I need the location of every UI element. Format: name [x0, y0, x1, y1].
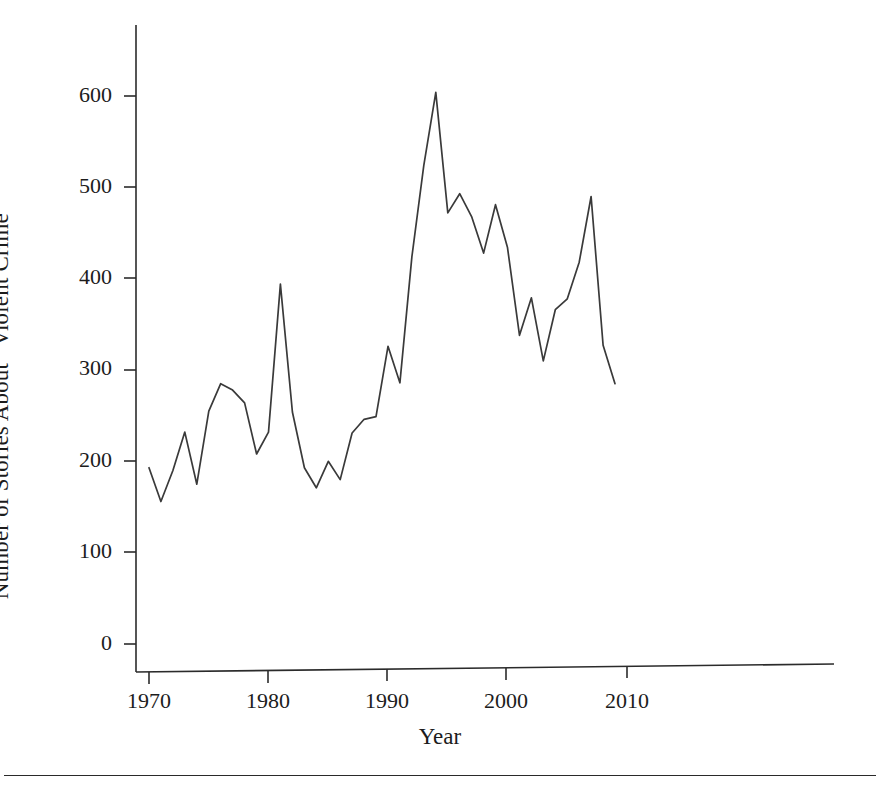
- x-axis: [136, 664, 834, 684]
- page-divider-rule: [4, 775, 876, 776]
- data-series-violent-crime-stories: [149, 92, 615, 501]
- y-axis: [124, 25, 136, 672]
- figure-container: Number of Stories About “Violent Crime” …: [0, 0, 880, 802]
- line-chart-plot: [0, 0, 880, 802]
